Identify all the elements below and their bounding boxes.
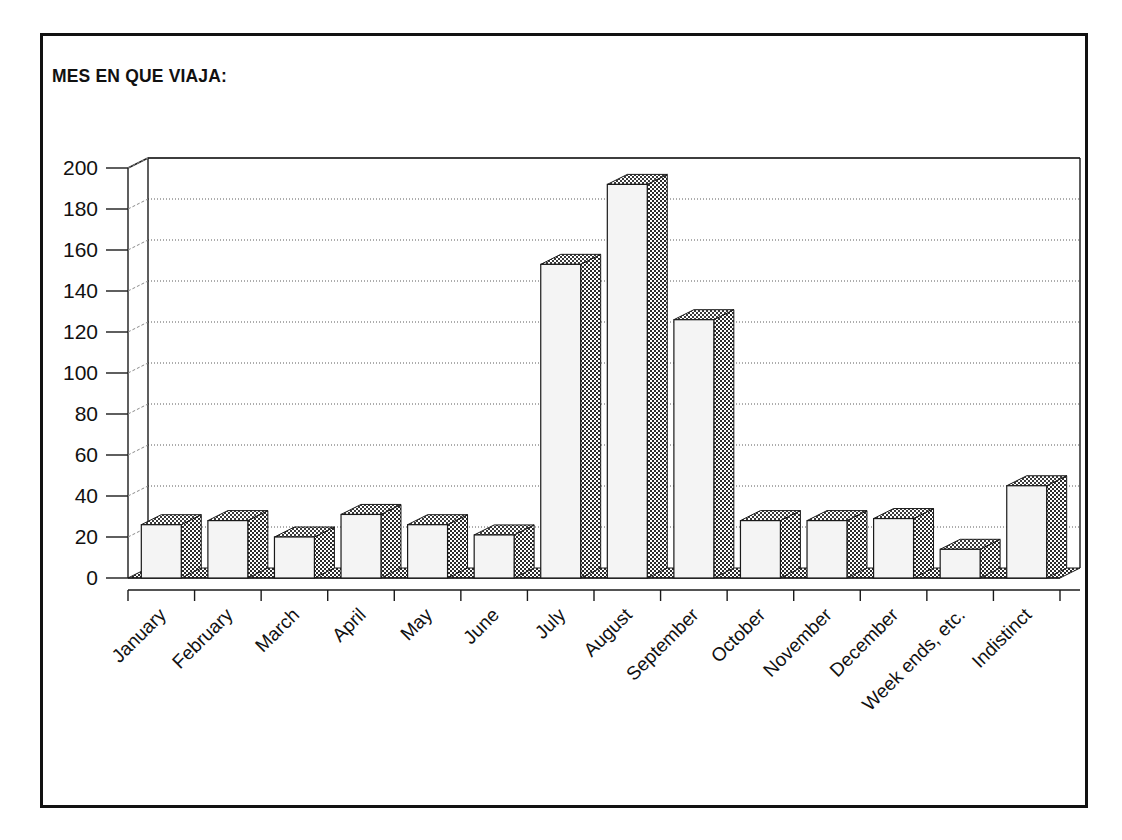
bar [740, 511, 800, 578]
chart-svg: 020406080100120140160180200 JanuaryFebru… [0, 0, 1122, 840]
x-category-label: August [579, 603, 636, 660]
axis-lines [128, 158, 1080, 578]
bar-chart: 020406080100120140160180200 JanuaryFebru… [0, 0, 1122, 840]
bar-side-face [248, 511, 268, 578]
y-tick-label: 100 [63, 361, 98, 384]
bar-side-face [381, 504, 401, 578]
x-category-label: May [396, 604, 437, 645]
bar [541, 254, 601, 578]
bar [674, 310, 734, 578]
bar-front-face [740, 521, 780, 578]
x-category-label: June [459, 604, 503, 648]
bar-series [141, 174, 1066, 578]
bar-side-face [780, 511, 800, 578]
y-tick-label: 120 [63, 320, 98, 343]
y-tick-leader [128, 404, 148, 414]
y-tick-label: 20 [75, 525, 98, 548]
y-tick-leader [128, 363, 148, 373]
bar-front-face [208, 521, 248, 578]
bar-front-face [940, 549, 980, 578]
y-tick-label: 160 [63, 238, 98, 261]
bar [274, 527, 334, 578]
bar-front-face [408, 525, 448, 578]
x-category-label: April [328, 604, 370, 646]
chart-floor [128, 568, 1080, 578]
y-tick-leader [128, 322, 148, 332]
x-category-label: January [107, 604, 170, 667]
y-tick-leader [128, 240, 148, 250]
x-category-label: February [168, 604, 237, 673]
x-category-label: Indistinct [968, 603, 1036, 671]
bar-side-face [714, 310, 734, 578]
bar-front-face [807, 521, 847, 578]
y-tick-label: 0 [86, 566, 98, 589]
x-category-label: September [622, 604, 703, 685]
bar [607, 174, 667, 578]
bar [874, 509, 934, 578]
y-tick-label: 200 [63, 156, 98, 179]
y-tick-leader [128, 445, 148, 455]
bar-side-face [847, 511, 867, 578]
y-tick-leader [128, 281, 148, 291]
bar-front-face [607, 184, 647, 578]
y-tick-label: 60 [75, 443, 98, 466]
y-tick-label: 80 [75, 402, 98, 425]
y-tick-leader [128, 486, 148, 496]
bar [141, 515, 201, 578]
bar-side-face [1047, 476, 1067, 578]
bar-side-face [647, 174, 667, 578]
bar-side-face [581, 254, 601, 578]
bar [341, 504, 401, 578]
bar-front-face [874, 519, 914, 578]
y-tick-label: 140 [63, 279, 98, 302]
bar-side-face [181, 515, 201, 578]
bar-front-face [141, 525, 181, 578]
bar-side-face [448, 515, 468, 578]
bar [940, 539, 1000, 578]
y-tick-label: 180 [63, 197, 98, 220]
floor-plane [128, 568, 1080, 578]
bar-front-face [1007, 486, 1047, 578]
bar-front-face [541, 264, 581, 578]
x-category-label: July [531, 604, 570, 643]
bar [1007, 476, 1067, 578]
bar-side-face [914, 509, 934, 578]
bar-front-face [274, 537, 314, 578]
bar [474, 525, 534, 578]
y-tick-leader [128, 199, 148, 209]
x-category-label: November [759, 604, 836, 681]
bar [408, 515, 468, 578]
bar-front-face [341, 514, 381, 578]
bar [807, 511, 867, 578]
bar-front-face [674, 320, 714, 578]
x-axis-ticks: JanuaryFebruaryMarchAprilMayJuneJulyAugu… [107, 590, 1080, 715]
y-tick-label: 40 [75, 484, 98, 507]
x-category-label: March [251, 604, 303, 656]
bar-front-face [474, 535, 514, 578]
bar [208, 511, 268, 578]
x-category-label: October [707, 604, 770, 667]
y-axis-ticks: 020406080100120140160180200 [63, 156, 148, 589]
